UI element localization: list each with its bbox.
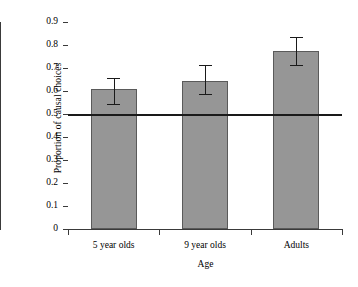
y-axis-tick-label: 0.8 — [18, 40, 58, 50]
y-axis-tick-label: 0.7 — [18, 63, 58, 73]
y-axis-tick-label: 0.6 — [18, 86, 58, 96]
x-axis-tick-label: 9 year olds — [155, 240, 255, 251]
x-axis-tick — [342, 230, 343, 235]
x-axis-tick-label: 5 year olds — [64, 240, 164, 251]
x-axis-tick — [251, 230, 252, 235]
y-axis-tick-label: 0.3 — [18, 155, 58, 165]
bar — [91, 89, 137, 229]
error-bar-line — [205, 65, 206, 94]
y-axis-tick-label: 0.4 — [18, 132, 58, 142]
y-axis-tick-label: 0.5 — [18, 109, 58, 119]
x-axis-title: Age — [68, 259, 343, 269]
chance-reference-line — [68, 114, 342, 116]
y-axis-tick-label: 0.1 — [18, 201, 58, 211]
error-bar-cap-lower — [199, 94, 212, 95]
y-axis-tick-label: 0.2 — [18, 178, 58, 188]
error-bar-cap-upper — [199, 65, 212, 66]
x-axis-tick-label: Adults — [246, 240, 346, 251]
error-bar-cap-lower — [107, 104, 120, 105]
error-bar-line — [296, 37, 297, 65]
error-bar-cap-lower — [290, 65, 303, 66]
x-axis-line — [68, 229, 343, 230]
y-axis-tick-label: 0.9 — [18, 17, 58, 27]
bar — [182, 81, 228, 229]
error-bar-cap-upper — [290, 37, 303, 38]
x-axis-tick — [68, 230, 69, 235]
x-axis-tick — [159, 230, 160, 235]
bar-chart-figure: Proportion of causal choices 00.10.20.30… — [0, 0, 358, 287]
y-axis-line — [0, 22, 1, 230]
error-bar-line — [114, 78, 115, 103]
bar — [273, 51, 319, 229]
error-bar-cap-upper — [107, 78, 120, 79]
plot-area — [68, 22, 342, 229]
y-axis-tick-label: 0 — [18, 224, 58, 234]
